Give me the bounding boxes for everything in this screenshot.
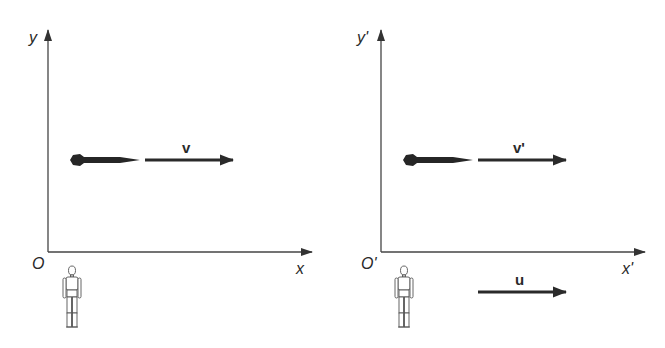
observer-figure-icon — [63, 266, 81, 327]
velocity-v-label: v — [182, 140, 190, 155]
origin-prime-label: O' — [361, 256, 377, 272]
diagram-canvas — [0, 0, 665, 348]
rocket-icon — [70, 154, 140, 166]
frame-s — [48, 30, 312, 327]
observer-figure-icon — [395, 266, 413, 327]
rocket-icon — [403, 154, 473, 166]
x-prime-axis-label: x' — [622, 261, 633, 277]
frame-s-prime — [381, 30, 645, 327]
y-prime-axis-label: y' — [357, 30, 368, 46]
origin-label: O — [32, 256, 44, 272]
frame-velocity-u-label: u — [515, 272, 524, 287]
velocity-v-prime-label: v' — [513, 140, 525, 155]
y-axis-label: y — [29, 30, 37, 46]
x-axis-label: x — [296, 261, 304, 277]
